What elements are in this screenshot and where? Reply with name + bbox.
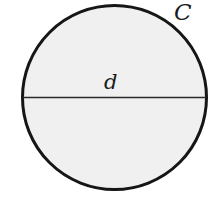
- circle-diagram-svg: [0, 0, 220, 204]
- diameter-label: d: [104, 72, 117, 93]
- circle-diagram-figure: C d: [0, 0, 220, 204]
- circumference-label: C: [174, 1, 192, 24]
